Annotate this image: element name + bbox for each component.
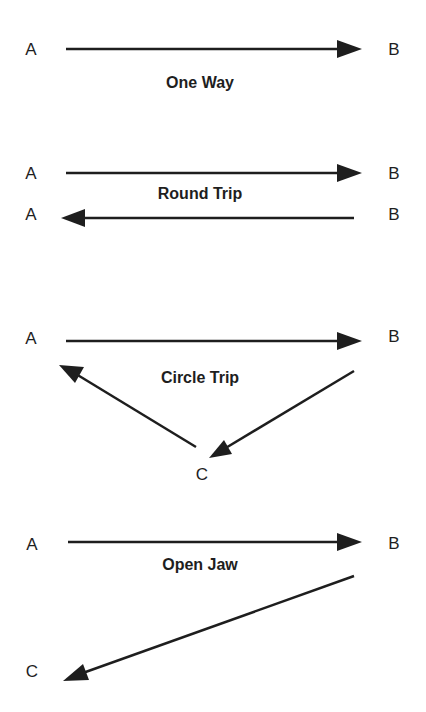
arrowhead-icon bbox=[63, 664, 89, 681]
arrowhead-icon bbox=[337, 164, 362, 182]
arrowhead-icon bbox=[61, 209, 85, 227]
node-label-b: B bbox=[388, 41, 399, 58]
node-label-b: B bbox=[388, 206, 399, 223]
diagram-title-round-trip: Round Trip bbox=[158, 186, 242, 202]
arrow-b-to-c bbox=[224, 371, 354, 449]
circle-trip-diagram bbox=[59, 332, 362, 458]
node-label-c: C bbox=[26, 663, 38, 680]
node-label-a: A bbox=[26, 536, 37, 553]
arrowhead-icon bbox=[59, 365, 84, 383]
node-label-a: A bbox=[25, 330, 36, 347]
node-label-a: A bbox=[25, 206, 36, 223]
node-label-b: B bbox=[388, 328, 399, 345]
arrow-b-to-c bbox=[80, 576, 354, 674]
arrowhead-icon bbox=[337, 533, 362, 551]
one-way-diagram bbox=[66, 40, 362, 58]
arrowhead-icon bbox=[209, 440, 232, 458]
diagram-title-circle-trip: Circle Trip bbox=[161, 370, 239, 386]
node-label-c: C bbox=[196, 466, 208, 483]
diagram-title-open-jaw: Open Jaw bbox=[162, 557, 238, 573]
arrowhead-icon bbox=[337, 332, 362, 350]
trip-types-diagram bbox=[0, 0, 426, 712]
node-label-a: A bbox=[25, 41, 36, 58]
node-label-b: B bbox=[388, 165, 399, 182]
node-label-b: B bbox=[388, 535, 399, 552]
arrowhead-icon bbox=[337, 40, 362, 58]
node-label-a: A bbox=[25, 165, 36, 182]
diagram-title-one-way: One Way bbox=[166, 75, 234, 91]
